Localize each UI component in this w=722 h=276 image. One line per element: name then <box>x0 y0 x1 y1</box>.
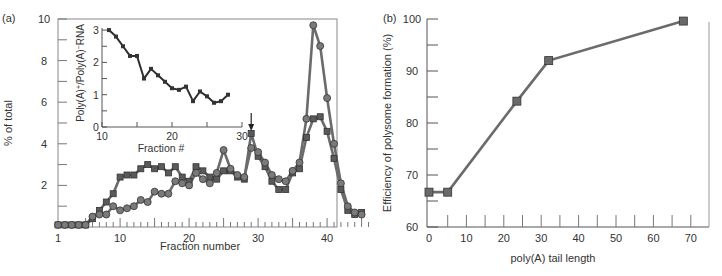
square-marker <box>152 166 158 172</box>
square-marker <box>124 172 130 178</box>
square-marker <box>165 170 171 176</box>
panel-b-y-tick-label: 80 <box>406 117 418 129</box>
circle-marker <box>275 176 282 183</box>
inset-y-tick-label: 1 <box>93 89 99 101</box>
square-marker <box>103 199 109 205</box>
panel-b-marker <box>679 17 687 25</box>
circle-marker <box>124 205 131 212</box>
inset-marker <box>135 54 139 58</box>
inset-marker <box>219 99 223 103</box>
arrow-head-icon <box>248 124 254 131</box>
circle-marker <box>234 172 241 179</box>
inset-marker <box>114 35 118 39</box>
panel-b-x-label: poly(A) tail length <box>511 252 596 264</box>
inset-marker <box>156 73 160 77</box>
panel-b: (b) 60708090100010203040506070 poly(A) t… <box>381 12 709 264</box>
square-marker <box>310 116 316 122</box>
panel-b-y-tick-label: 70 <box>406 169 418 181</box>
square-marker <box>172 164 178 170</box>
circle-marker <box>351 209 358 216</box>
arrow-annotation <box>248 113 254 131</box>
y-tick-label: 8 <box>41 55 47 67</box>
circle-marker <box>344 203 351 210</box>
square-marker <box>131 172 137 178</box>
x-tick-label: 40 <box>321 232 333 244</box>
panel-b-axes: 60708090100010203040506070 <box>403 13 709 244</box>
panel-b-series <box>425 17 687 196</box>
square-marker <box>145 162 151 168</box>
inset-marker <box>107 28 111 32</box>
panel-b-marker <box>425 188 433 196</box>
panel-b-x-tick-label: 40 <box>572 232 584 244</box>
panel-b-label: (b) <box>383 12 396 24</box>
square-marker <box>159 164 165 170</box>
circle-marker <box>89 213 96 220</box>
circle-marker <box>68 221 75 228</box>
inset-marker <box>121 44 125 48</box>
panel-b-y-tick-label: 60 <box>406 221 418 233</box>
circle-marker <box>324 95 331 102</box>
circle-marker <box>220 147 227 154</box>
panel-a-label: (a) <box>2 12 15 24</box>
square-marker <box>317 114 323 120</box>
inset-x-label: Fraction # <box>138 142 185 154</box>
inset-series <box>107 28 230 105</box>
circle-marker <box>255 149 262 156</box>
panel-b-y-tick-label: 90 <box>406 65 418 77</box>
square-marker <box>117 174 123 180</box>
x-tick-label: 10 <box>114 232 126 244</box>
circle-marker <box>186 182 193 189</box>
circle-marker <box>130 203 137 210</box>
square-marker <box>248 130 254 136</box>
circle-marker <box>310 22 317 29</box>
circle-marker <box>151 188 158 195</box>
circle-marker <box>199 176 206 183</box>
panel-b-y-tick-label: 100 <box>403 13 421 25</box>
inset-marker <box>205 94 209 98</box>
y-tick-label: 2 <box>41 179 47 191</box>
circle-marker <box>317 43 324 50</box>
square-marker <box>207 174 213 180</box>
circle-marker <box>144 199 151 206</box>
panel-a-plot-frame <box>58 19 337 227</box>
circle-marker <box>117 207 124 214</box>
inset-marker <box>142 77 146 81</box>
panel-b-line <box>429 21 683 192</box>
inset-chart: 0123102030 Fraction # Poly(A)+/Poly(A)−R… <box>75 24 248 154</box>
circle-marker <box>158 190 165 197</box>
inset-marker <box>149 67 153 71</box>
panel-b-marker <box>444 188 452 196</box>
circle-marker <box>165 190 172 197</box>
square-marker <box>221 168 227 174</box>
panel-b-x-tick-label: 0 <box>426 232 432 244</box>
x-tick-label: 30 <box>252 232 264 244</box>
circle-marker <box>241 174 248 181</box>
y-tick-label: 4 <box>41 138 47 150</box>
circle-marker <box>289 167 296 174</box>
circle-marker <box>206 180 213 187</box>
circle-marker <box>103 211 110 218</box>
square-marker <box>200 168 206 174</box>
circle-marker <box>262 159 269 166</box>
square-marker <box>138 166 144 172</box>
square-marker <box>303 135 309 141</box>
x-tick-label: 1 <box>55 232 61 244</box>
panel-a-x-label: Fraction number <box>160 240 240 252</box>
circle-marker <box>55 221 62 228</box>
square-marker <box>110 191 116 197</box>
circle-marker <box>193 169 200 176</box>
inset-x-tick-label: 20 <box>166 130 178 142</box>
panel-b-x-tick-label: 20 <box>498 232 510 244</box>
circle-marker <box>296 159 303 166</box>
square-marker <box>276 187 282 193</box>
panel-b-x-tick-label: 60 <box>647 232 659 244</box>
panel-b-x-tick-label: 50 <box>610 232 622 244</box>
panel-a-y-label: % of total <box>2 100 14 146</box>
y-tick-label: 10 <box>38 13 50 25</box>
square-marker <box>179 174 185 180</box>
circle-marker <box>96 211 103 218</box>
inset-marker <box>128 54 132 58</box>
inset-marker <box>184 85 188 89</box>
square-marker <box>269 178 275 184</box>
panel-b-marker <box>545 57 553 65</box>
